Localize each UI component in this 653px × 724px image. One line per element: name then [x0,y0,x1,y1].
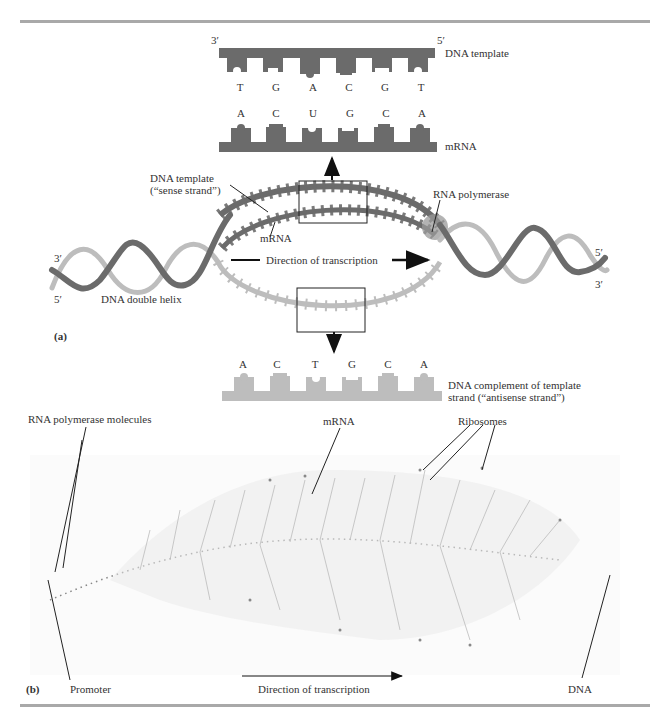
bottom-zoom-box [297,288,365,332]
left-bottom-end: 5′ [54,293,62,305]
rna-polymerase-label: RNA polymerase [433,188,509,200]
dna-label: DNA [568,683,592,695]
left-double-helix [52,215,230,293]
template-base: T [233,81,247,93]
template-strand-inset [219,48,435,78]
left-top-end: 3′ [54,252,62,264]
mrna-base: A [234,107,248,119]
mrna-base: G [343,107,357,119]
antisense-label-2: strand (“antisense strand”) [448,391,565,403]
mrna-inset-label: mRNA [445,140,477,152]
mrna-bubble-label: mRNA [260,232,292,244]
mrna-base: U [306,107,320,119]
inset-end-5prime: 5′ [437,34,445,46]
panel-b-label: (b) [26,683,39,695]
direction-label-b: Direction of transcription [258,683,370,695]
direction-label-a: Direction of transcription [266,254,378,266]
mrna-base: C [379,107,393,119]
micrograph [30,455,620,675]
complement-base: A [236,358,250,370]
complement-base: A [417,358,431,370]
mrna-base: A [415,107,429,119]
polymerase-molecules-label: RNA polymerase molecules [28,413,151,425]
mrna-base: C [269,107,283,119]
complement-strand-inset [222,373,442,401]
right-double-helix [440,224,607,281]
sense-strand-label: DNA template [150,172,214,184]
antisense-label: DNA complement of template [448,379,581,391]
mrna-b-label: mRNA [323,415,355,427]
ribosomes-label: Ribosomes [458,415,507,427]
complement-base: T [308,358,322,370]
panel-a-label: (a) [54,330,67,342]
right-top-end: 5′ [595,246,603,258]
inset-end-3prime: 3′ [211,34,219,46]
transcription-diagram [0,0,653,724]
complement-base: C [270,358,284,370]
template-base: G [378,81,392,93]
complement-base: C [381,358,395,370]
template-base: T [414,81,428,93]
right-bottom-end: 3′ [595,278,603,290]
complement-base: G [345,358,359,370]
helix-label: DNA double helix [101,293,182,305]
promoter-label: Promoter [70,683,111,695]
sense-strand-label-2: (“sense strand”) [150,184,221,196]
template-base: G [269,81,283,93]
template-label: DNA template [445,47,509,59]
mrna-strand-inset [219,124,437,152]
template-base: A [306,81,320,93]
template-base: C [342,81,356,93]
